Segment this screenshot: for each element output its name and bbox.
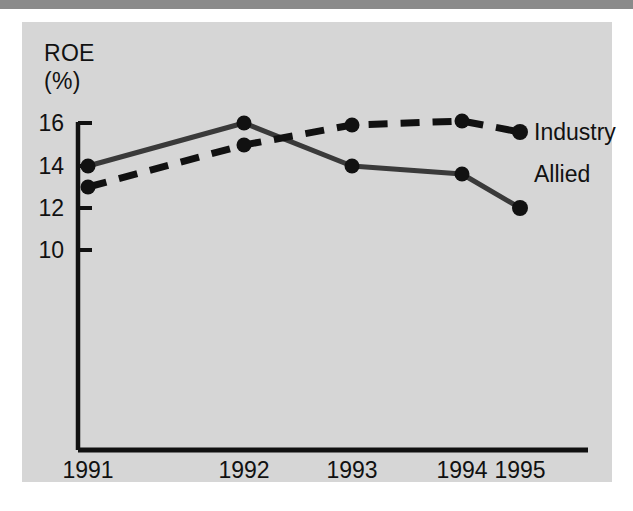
y-axis-title: ROE xyxy=(44,40,95,67)
y-axis-unit: (%) xyxy=(44,68,81,95)
data-point-allied-1991 xyxy=(81,159,96,174)
data-point-allied-1992 xyxy=(237,116,252,131)
x-tick-label-1991: 1991 xyxy=(53,457,123,484)
data-point-industry-1993 xyxy=(345,118,360,133)
data-point-industry-1991 xyxy=(81,180,96,195)
x-tick-label-1993: 1993 xyxy=(317,457,387,484)
data-point-allied-1993 xyxy=(345,159,360,174)
x-tick-label-1995: 1995 xyxy=(485,457,555,484)
x-tick-label-1992: 1992 xyxy=(209,457,279,484)
y-tick-label-14: 14 xyxy=(28,153,64,180)
y-tick-label-12: 12 xyxy=(28,195,64,222)
y-tick-label-16: 16 xyxy=(28,110,64,137)
data-point-industry-1992 xyxy=(237,138,252,153)
data-point-industry-1994 xyxy=(455,114,470,129)
roe-line-chart xyxy=(22,22,612,482)
top-banner-bar xyxy=(0,0,633,9)
data-point-allied-1994 xyxy=(455,167,470,182)
legend-label-allied: Allied xyxy=(534,161,590,188)
legend-label-industry: Industry xyxy=(534,119,616,146)
data-point-allied-1995 xyxy=(512,200,528,216)
data-point-industry-1995 xyxy=(512,124,528,140)
y-tick-label-10: 10 xyxy=(28,237,64,264)
chart-panel: ROE (%) 16 14 12 10 1991 1992 1993 1994 … xyxy=(22,22,612,482)
series-line-allied xyxy=(88,123,520,208)
